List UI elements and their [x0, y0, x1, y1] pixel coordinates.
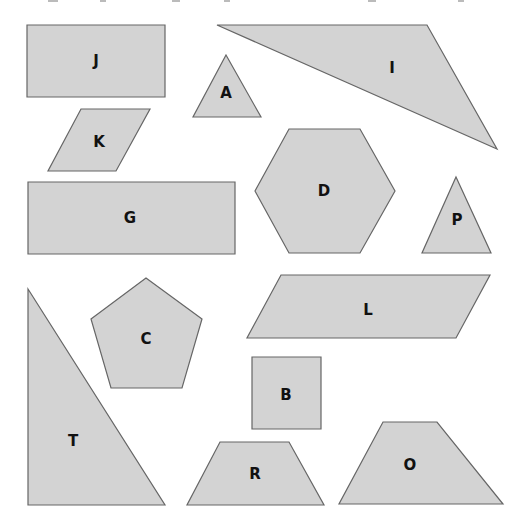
shape-g: G [28, 182, 235, 254]
shape-label: I [389, 59, 395, 77]
shape-p: P [422, 177, 491, 253]
shape-label: B [280, 386, 291, 404]
shape-label: R [249, 465, 261, 483]
shape-label: C [140, 330, 151, 348]
shape-label: L [363, 301, 373, 319]
shape-l: L [247, 275, 490, 338]
shape-r: R [187, 442, 324, 505]
shapes-canvas: JIAKGDPLCTBRO [0, 0, 524, 532]
trapezoid-shape [339, 422, 503, 504]
shape-label: P [452, 211, 463, 229]
shape-d: D [255, 129, 395, 253]
shape-k: K [48, 109, 150, 171]
shape-a: A [193, 55, 261, 117]
shape-label: J [92, 52, 99, 70]
shape-label: K [93, 133, 106, 151]
shape-c: C [91, 278, 202, 388]
shape-label: G [124, 209, 136, 227]
shape-b: B [252, 357, 321, 429]
shape-label: A [220, 84, 232, 102]
shape-o: O [339, 422, 503, 504]
shape-j: J [27, 25, 165, 97]
shape-label: T [68, 432, 79, 450]
shape-label: O [404, 456, 417, 474]
shape-layer: JIAKGDPLCTBRO [27, 25, 503, 505]
shape-label: D [318, 182, 330, 200]
